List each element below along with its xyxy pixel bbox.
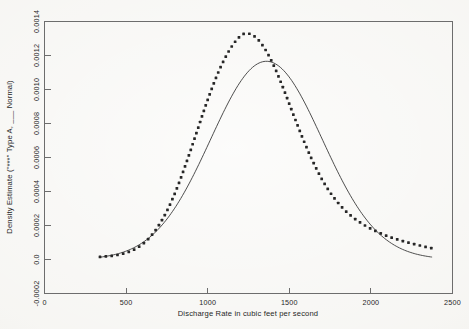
y-tick-label: 0.0012 xyxy=(32,44,41,67)
type-a-density-dot xyxy=(305,146,308,149)
x-tick-label: 500 xyxy=(120,298,133,307)
type-a-density-dot xyxy=(281,86,284,89)
type-a-density-dot xyxy=(279,80,282,83)
type-a-density-dot xyxy=(307,151,310,154)
type-a-density-dot xyxy=(341,206,344,209)
type-a-density-dot xyxy=(204,104,207,107)
y-tick-label: 0.0006 xyxy=(32,146,41,169)
x-axis-title: Discharge Rate in cubic feet per second xyxy=(178,309,319,318)
type-a-density-dot xyxy=(197,126,200,129)
type-a-density-dot xyxy=(292,113,295,116)
type-a-density-dot xyxy=(310,157,313,160)
type-a-density-dot xyxy=(188,154,191,157)
x-tick-label: 1500 xyxy=(281,298,298,307)
type-a-density-dot xyxy=(199,121,202,124)
type-a-density-dot xyxy=(337,202,340,205)
type-a-density-dot xyxy=(390,236,393,239)
type-a-density-dot xyxy=(138,245,141,248)
type-a-density-dot xyxy=(212,82,215,85)
type-a-density-dot xyxy=(206,98,209,101)
type-a-density-dot xyxy=(253,35,256,38)
type-a-density-dot xyxy=(424,245,427,248)
type-a-density-dot xyxy=(147,238,150,241)
type-a-density-dot xyxy=(154,229,157,232)
type-a-density-dot xyxy=(110,255,113,258)
type-a-density-dot xyxy=(116,254,119,257)
type-a-density-dot xyxy=(224,55,227,58)
normal-density-curve xyxy=(99,61,432,257)
type-a-density-dot xyxy=(234,40,237,43)
type-a-density-dot xyxy=(99,255,102,258)
type-a-density-dot xyxy=(222,60,225,63)
y-axis-title: Density Estimate ("***" Type A, ___ Norm… xyxy=(5,80,14,234)
type-a-density-dot xyxy=(286,97,289,100)
type-a-density-dot xyxy=(333,197,336,200)
type-a-density-dot xyxy=(288,102,291,105)
type-a-density-dot xyxy=(210,87,213,90)
type-a-density-dot xyxy=(290,108,293,111)
type-a-density-dot xyxy=(169,203,172,206)
type-a-density-dot xyxy=(359,221,362,224)
type-a-density-dot xyxy=(257,39,260,42)
type-a-density-dot xyxy=(294,119,297,122)
type-a-density-dot xyxy=(330,192,333,195)
type-a-density-dot xyxy=(238,36,241,39)
y-tick-label: 0.0002 xyxy=(32,214,41,237)
type-a-density-dot xyxy=(176,187,179,190)
type-a-density-dot xyxy=(182,171,185,174)
type-a-density-dot xyxy=(354,218,357,221)
density-plot: -0.00020.00.00020.00040.00060.00080.0010… xyxy=(0,0,469,329)
type-a-density-dot xyxy=(272,64,275,67)
type-a-density-dot xyxy=(151,233,154,236)
type-a-density-dot xyxy=(323,183,326,186)
y-tick-label: 0.0 xyxy=(32,254,41,265)
type-a-density-dot xyxy=(270,59,273,62)
type-a-density-dot xyxy=(189,148,192,151)
type-a-density-dot xyxy=(178,182,181,185)
x-tick-label: 2500 xyxy=(444,298,461,307)
type-a-density-dot xyxy=(186,160,189,163)
y-tick-label: -0.0002 xyxy=(32,281,41,307)
type-a-density-dot xyxy=(104,255,107,258)
type-a-density-dot xyxy=(315,167,318,170)
type-a-density-dot xyxy=(133,248,136,251)
type-a-density-dot xyxy=(277,75,280,78)
type-a-density-dot xyxy=(201,115,204,118)
type-a-density-dot xyxy=(261,44,264,47)
type-a-density-dot xyxy=(191,143,194,146)
type-a-density-dot xyxy=(267,54,270,57)
type-a-density-dot xyxy=(385,234,388,237)
type-a-density-dot xyxy=(413,243,416,246)
type-a-density-dot xyxy=(264,49,267,52)
type-a-density-dot xyxy=(161,219,164,222)
type-a-density-dot xyxy=(396,238,399,241)
type-a-density-dot xyxy=(275,70,278,73)
series-normal-curve xyxy=(99,61,432,257)
type-a-density-dot xyxy=(122,252,125,255)
type-a-density-dot xyxy=(284,91,287,94)
x-tick-label: 2000 xyxy=(363,298,380,307)
type-a-density-dot xyxy=(379,232,382,235)
type-a-density-dot xyxy=(303,140,306,143)
type-a-density-dot xyxy=(180,176,183,179)
type-a-density-dot xyxy=(227,50,230,53)
type-a-density-dot xyxy=(301,135,304,138)
type-a-density-dot xyxy=(326,188,329,191)
y-tick-label: 0.0004 xyxy=(32,180,41,203)
type-a-density-dot xyxy=(184,165,187,168)
type-a-density-dot xyxy=(312,162,315,165)
y-tick-label: 0.0014 xyxy=(32,10,41,33)
type-a-density-dot xyxy=(193,137,196,140)
type-a-density-dot xyxy=(219,66,222,69)
y-tick-label: 0.0010 xyxy=(32,78,41,101)
type-a-density-dot xyxy=(349,214,352,217)
type-a-density-dot xyxy=(296,124,299,127)
y-axis-ticks: -0.00020.00.00020.00040.00060.00080.0010… xyxy=(32,10,51,306)
type-a-density-dot xyxy=(248,32,251,35)
type-a-density-dot xyxy=(143,242,146,245)
type-a-density-dot xyxy=(195,132,198,135)
type-a-density-dot xyxy=(430,247,433,250)
type-a-density-dot xyxy=(163,214,166,217)
type-a-density-dot xyxy=(364,224,367,227)
type-a-density-dot xyxy=(230,45,233,48)
